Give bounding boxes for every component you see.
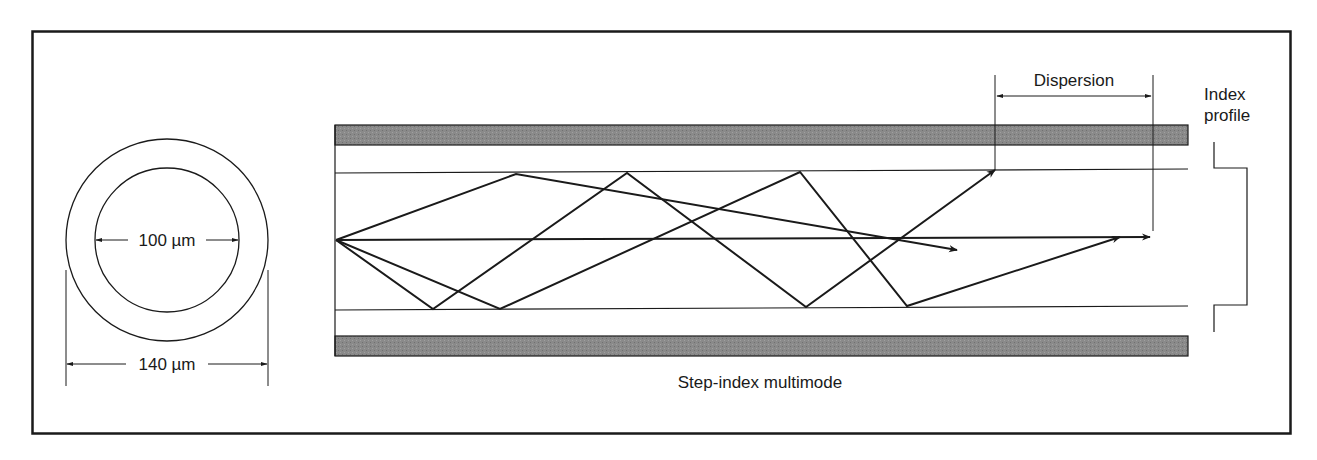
bottom-jacket-band	[335, 336, 1188, 356]
index-profile-label-line1: Index	[1204, 85, 1246, 104]
fiber-cross-section: 100 µm 140 µm	[66, 139, 268, 386]
index-profile-label-line2: profile	[1204, 106, 1250, 125]
core-top-boundary	[335, 169, 1188, 173]
step-index-fiber-diagram: 100 µm 140 µm Dispersion Index profile	[0, 0, 1317, 460]
figure-frame	[33, 32, 1291, 434]
core-bottom-boundary	[335, 306, 1188, 310]
fiber-side-view: Dispersion Index profile Step-index mult…	[335, 71, 1250, 392]
core-diameter-label: 100 µm	[138, 231, 195, 250]
cladding-diameter-label: 140 µm	[138, 355, 195, 374]
figure-caption: Step-index multimode	[678, 373, 842, 392]
dispersion-label: Dispersion	[1034, 71, 1114, 90]
axial-ray	[336, 237, 1150, 240]
top-jacket-band	[335, 125, 1188, 145]
index-profile-step	[1214, 142, 1247, 332]
